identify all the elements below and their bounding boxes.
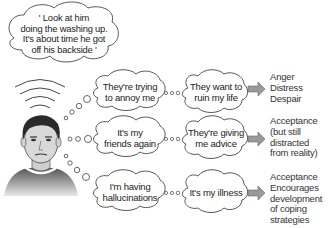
interpretation-line: They're giving	[186, 128, 246, 139]
top-thought-line: off his backside '	[14, 45, 114, 56]
initial-thought-3: I'm having hallucinations	[98, 182, 162, 203]
interpretation-3: It's my illness	[186, 188, 246, 199]
interpretation-line: me advice	[186, 139, 246, 150]
outcome-1: Anger Distress Despair	[270, 72, 303, 104]
thought-line: hallucinations	[98, 193, 162, 204]
thought-bubble-trail-2	[68, 135, 92, 142]
thought-line: It's my	[98, 128, 162, 139]
thought-line: to annoy me	[98, 93, 162, 104]
outcome-line: Encourages	[270, 183, 322, 194]
thought-line: I'm having	[98, 182, 162, 193]
interpretation-line: ruin my life	[186, 93, 246, 104]
interpretation-line: It's my illness	[186, 188, 246, 199]
outcome-line: Despair	[270, 94, 303, 105]
thought-line: They're trying	[98, 82, 162, 93]
right-arrow-icon	[248, 132, 265, 146]
interpretation-1: They want to ruin my life	[186, 82, 246, 103]
outcome-3: Acceptance Encourages development of cop…	[270, 172, 322, 226]
right-arrow-icon	[248, 186, 265, 200]
top-thought-line: ' Look at him	[14, 13, 114, 24]
thought-line: friends again	[98, 139, 162, 150]
outcome-line: (but still	[270, 127, 318, 138]
right-arrow-icon	[248, 82, 265, 96]
top-thought-text: ' Look at him doing the washing up. It's…	[14, 13, 114, 55]
thought-bubble-trail-1	[64, 96, 90, 120]
outcome-2: Acceptance (but still distracted from re…	[270, 116, 318, 159]
initial-thought-1: They're trying to annoy me	[98, 82, 162, 103]
outcome-line: from reality)	[270, 148, 318, 159]
sound-waves-icon	[15, 80, 65, 109]
connector-bubbles	[164, 91, 179, 195]
interpretation-2: They're giving me advice	[186, 128, 246, 149]
initial-thought-2: It's my friends again	[98, 128, 162, 149]
interpretation-line: They want to	[186, 82, 246, 93]
outcome-line: Distress	[270, 83, 303, 94]
outcome-line: strategies	[270, 215, 322, 226]
